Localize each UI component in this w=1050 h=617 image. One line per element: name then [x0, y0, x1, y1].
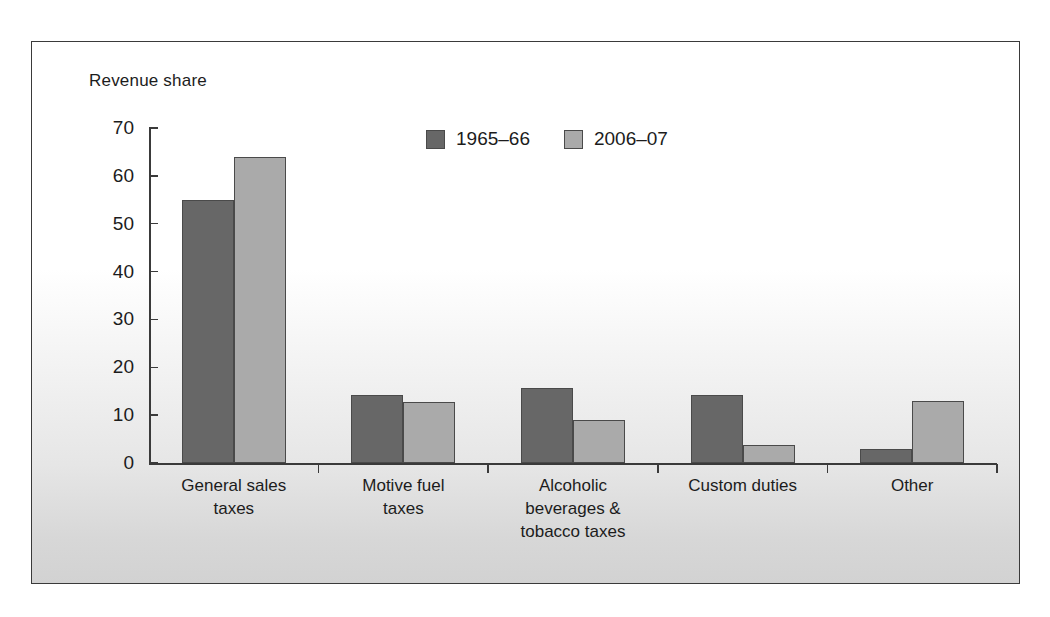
bar [403, 402, 455, 463]
legend-label: 1965–66 [456, 128, 530, 150]
y-axis-tick [149, 271, 158, 273]
legend-item: 1965–66 [426, 128, 530, 150]
y-axis-tick [149, 127, 158, 129]
x-axis-category-label: Alcoholic beverages & tobacco taxes [488, 474, 658, 543]
legend-item: 2006–07 [564, 128, 668, 150]
bar [743, 445, 795, 463]
y-axis-tick-label-text: 30 [82, 308, 134, 330]
y-axis-tick-label-text: 10 [82, 404, 134, 426]
y-axis-tick-label-text: 0 [82, 452, 134, 474]
legend-swatch-icon [564, 130, 583, 149]
x-axis-tick [487, 464, 489, 473]
bar [234, 157, 286, 463]
bar [182, 200, 234, 463]
plot-area: 010203040506070 General sales taxesMotiv… [32, 42, 1020, 584]
y-axis-tick [149, 319, 158, 321]
y-axis-tick-label-text: 50 [82, 213, 134, 235]
y-axis-tick [149, 367, 158, 369]
x-axis-category-label: Other [827, 474, 997, 497]
x-axis-category-label: Motive fuel taxes [319, 474, 489, 520]
chart-legend: 1965–662006–07 [426, 128, 668, 150]
x-axis-tick [827, 464, 829, 473]
bar [860, 449, 912, 463]
bar [912, 401, 964, 463]
x-axis-tick [657, 464, 659, 473]
legend-swatch-icon [426, 130, 445, 149]
x-axis-tick [996, 464, 998, 473]
y-axis-tick [149, 223, 158, 225]
y-axis-tick-label-text: 40 [82, 261, 134, 283]
bar [573, 420, 625, 463]
y-axis-tick-label-text: 20 [82, 356, 134, 378]
y-axis-tick [149, 414, 158, 416]
y-axis-tick-label-text: 60 [82, 165, 134, 187]
x-axis-category-label: Custom duties [658, 474, 828, 497]
y-axis-tick [149, 462, 158, 464]
y-axis-tick [149, 175, 158, 177]
bar [351, 395, 403, 463]
chart-figure-frame: Revenue share 010203040506070 General sa… [31, 41, 1020, 584]
x-axis-category-label: General sales taxes [149, 474, 319, 520]
y-axis-tick-label-text: 70 [82, 117, 134, 139]
bar [521, 388, 573, 463]
x-axis-line [149, 463, 997, 465]
legend-label: 2006–07 [594, 128, 668, 150]
x-axis-tick [318, 464, 320, 473]
bar [691, 395, 743, 463]
